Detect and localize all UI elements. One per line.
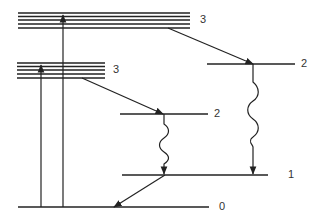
decay-arrow-lower-to-middle-2 [82,78,163,114]
lower-band-3 [17,63,105,78]
level-0-label: 0 [219,200,225,212]
wavy-emission-arrow-right [248,64,259,174]
level-1-label: 1 [288,168,294,180]
right-level-2-label: 2 [301,57,307,69]
wavy-emission-arrow-middle [160,114,169,174]
decay-arrow-1-to-0 [114,175,165,207]
lower-band-label: 3 [113,63,119,75]
middle-level-2-label: 2 [214,107,220,119]
energy-level-diagram: 3 3 2 2 1 0 [0,0,322,217]
upper-band-label: 3 [200,13,206,25]
decay-arrow-upper-to-right-2 [168,28,253,64]
upper-band-3 [18,13,190,28]
